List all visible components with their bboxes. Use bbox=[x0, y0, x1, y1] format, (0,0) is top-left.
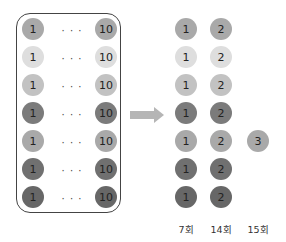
right-circle: 1 bbox=[175, 102, 197, 124]
right-circle: 1 bbox=[175, 130, 197, 152]
left-circle-first: 1 bbox=[22, 46, 44, 68]
right-circle: 2 bbox=[210, 18, 232, 40]
left-circle-last: 10 bbox=[95, 186, 117, 208]
ellipsis: · · · bbox=[57, 110, 87, 120]
left-circle-last: 10 bbox=[95, 46, 117, 68]
right-circle: 2 bbox=[210, 102, 232, 124]
left-circle-first: 1 bbox=[22, 74, 44, 96]
ellipsis: · · · bbox=[57, 194, 87, 204]
left-circle-first: 1 bbox=[22, 158, 44, 180]
ellipsis: · · · bbox=[57, 166, 87, 176]
right-circle: 2 bbox=[210, 186, 232, 208]
left-circle-last: 10 bbox=[95, 18, 117, 40]
ellipsis: · · · bbox=[57, 26, 87, 36]
left-circle-last: 10 bbox=[95, 102, 117, 124]
right-arrow-icon bbox=[130, 106, 166, 124]
right-circle: 2 bbox=[210, 74, 232, 96]
left-circle-last: 10 bbox=[95, 130, 117, 152]
left-circle-last: 10 bbox=[95, 74, 117, 96]
right-circle: 1 bbox=[175, 158, 197, 180]
ellipsis: · · · bbox=[57, 54, 87, 64]
right-circle: 2 bbox=[210, 158, 232, 180]
left-circle-first: 1 bbox=[22, 130, 44, 152]
left-circle-first: 1 bbox=[22, 186, 44, 208]
left-circle-first: 1 bbox=[22, 102, 44, 124]
column-label: 14회 bbox=[206, 222, 236, 236]
left-circle-last: 10 bbox=[95, 158, 117, 180]
right-circle: 2 bbox=[210, 130, 232, 152]
right-circle: 1 bbox=[175, 186, 197, 208]
column-label: 7회 bbox=[171, 222, 201, 236]
ellipsis: · · · bbox=[57, 138, 87, 148]
right-circle: 1 bbox=[175, 46, 197, 68]
column-label: 15회 bbox=[243, 222, 273, 236]
ellipsis: · · · bbox=[57, 82, 87, 92]
right-circle: 1 bbox=[175, 18, 197, 40]
right-circle: 3 bbox=[247, 130, 269, 152]
right-circle: 1 bbox=[175, 74, 197, 96]
right-circle: 2 bbox=[210, 46, 232, 68]
left-circle-first: 1 bbox=[22, 18, 44, 40]
